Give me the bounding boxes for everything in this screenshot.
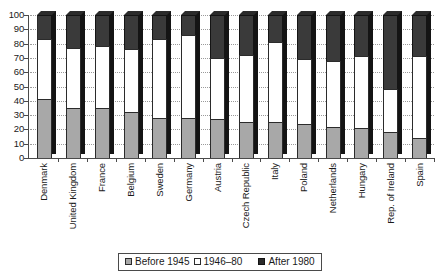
bar-segment[interactable]: [354, 56, 369, 128]
bar-segment[interactable]: [152, 15, 167, 39]
stacked-bar[interactable]: [354, 15, 369, 158]
bar-segment[interactable]: [326, 127, 341, 158]
y-tick-label: 40: [0, 96, 24, 106]
bar-segment[interactable]: [37, 99, 52, 158]
y-tick-label: 0: [0, 153, 24, 163]
bar-segment[interactable]: [354, 15, 369, 56]
bar-segment[interactable]: [412, 138, 427, 158]
bar-segment[interactable]: [383, 15, 398, 89]
bar-segment[interactable]: [152, 39, 167, 118]
bar-segment[interactable]: [268, 122, 283, 158]
y-tick-label: 20: [0, 124, 24, 134]
y-axis-line: [28, 15, 29, 158]
bar-segment[interactable]: [210, 119, 225, 158]
bar-segment[interactable]: [239, 15, 254, 55]
stacked-bar[interactable]: [152, 15, 167, 158]
bar-segment[interactable]: [37, 39, 52, 99]
bar-segment[interactable]: [124, 112, 139, 158]
legend-item[interactable]: After 1980: [258, 256, 314, 267]
bar-segment[interactable]: [95, 108, 110, 158]
bar-segment[interactable]: [354, 128, 369, 158]
x-label-cell: Spain: [405, 163, 434, 251]
x-tick-mark: [59, 158, 88, 162]
x-axis-label: France: [97, 163, 107, 192]
bar-group: [232, 15, 261, 158]
bar-depth-side: [196, 11, 200, 154]
bar-segment[interactable]: [297, 59, 312, 123]
y-tick-label: 50: [0, 82, 24, 92]
bar-segment[interactable]: [37, 15, 52, 39]
legend-label: Before 1945: [135, 256, 190, 267]
x-label-cell: Austria: [203, 163, 232, 251]
bar-group: [290, 15, 319, 158]
stacked-bar[interactable]: [326, 15, 341, 158]
stacked-bar[interactable]: [95, 15, 110, 158]
bar-segment[interactable]: [326, 61, 341, 127]
x-label-cell: United Kingdom: [59, 163, 88, 251]
stacked-bar[interactable]: [181, 15, 196, 158]
x-axis-label: Czech Republic: [241, 163, 251, 228]
stacked-bar[interactable]: [297, 15, 312, 158]
bar-segment[interactable]: [95, 15, 110, 46]
bar-segment[interactable]: [66, 48, 81, 108]
x-label-cell: Rep. of Ireland: [376, 163, 405, 251]
legend-label: After 1980: [268, 256, 314, 267]
bar-segment[interactable]: [239, 55, 254, 122]
bar-segment[interactable]: [124, 15, 139, 49]
bar-segment[interactable]: [210, 15, 225, 58]
y-tick-label: 30: [0, 110, 24, 120]
bar-segment[interactable]: [124, 49, 139, 112]
stacked-bar[interactable]: [66, 15, 81, 158]
x-label-cell: Netherlands: [319, 163, 348, 251]
bar-segment[interactable]: [412, 56, 427, 138]
bar-segment[interactable]: [383, 89, 398, 132]
x-tick-mark: [290, 158, 319, 162]
bar-segment[interactable]: [268, 15, 283, 42]
x-axis-label: Austria: [213, 163, 223, 192]
bar-segment[interactable]: [181, 15, 196, 35]
bar-segment[interactable]: [66, 15, 81, 48]
bar-segment[interactable]: [297, 15, 312, 59]
x-tick-mark: [145, 158, 174, 162]
stacked-bar[interactable]: [37, 15, 52, 158]
bar-segment[interactable]: [152, 118, 167, 158]
bar-segment[interactable]: [268, 42, 283, 122]
stacked-bar[interactable]: [210, 15, 225, 158]
x-label-cell: Poland: [290, 163, 319, 251]
legend-label: 1946–80: [204, 256, 243, 267]
bar-segment[interactable]: [210, 58, 225, 119]
x-axis-label: Belgium: [126, 163, 136, 197]
legend-item[interactable]: Before 1945: [125, 256, 190, 267]
x-axis-label: Sweden: [155, 163, 165, 197]
stacked-bar[interactable]: [124, 15, 139, 158]
stacked-bar-chart: 0102030405060708090100 DenmarkUnited Kin…: [0, 0, 445, 280]
bar-segment[interactable]: [297, 124, 312, 158]
bar-segment[interactable]: [95, 46, 110, 107]
x-axis-label: Denmark: [39, 163, 49, 201]
legend-swatch-gray: [125, 258, 132, 265]
x-axis-ticks: [30, 158, 434, 162]
bar-group: [261, 15, 290, 158]
bar-segment[interactable]: [412, 15, 427, 56]
bar-group: [405, 15, 434, 158]
bar-segment[interactable]: [239, 122, 254, 158]
bar-segment[interactable]: [66, 108, 81, 158]
x-tick-mark: [174, 158, 203, 162]
legend-swatch-white: [194, 258, 201, 265]
legend-item[interactable]: 1946–80: [194, 256, 243, 267]
bar-segment[interactable]: [181, 35, 196, 118]
stacked-bar[interactable]: [239, 15, 254, 158]
bar-segment[interactable]: [383, 132, 398, 158]
bar-group: [117, 15, 146, 158]
y-tick-label: 100: [0, 10, 24, 20]
bar-segment[interactable]: [326, 15, 341, 61]
x-tick-mark: [30, 158, 59, 162]
bar-group: [203, 15, 232, 158]
stacked-bar[interactable]: [383, 15, 398, 158]
x-label-cell: Hungary: [347, 163, 376, 251]
stacked-bar[interactable]: [412, 15, 427, 158]
stacked-bar[interactable]: [268, 15, 283, 158]
bar-depth-side: [254, 11, 258, 154]
bar-segment[interactable]: [181, 118, 196, 158]
y-tick-label: 10: [0, 139, 24, 149]
